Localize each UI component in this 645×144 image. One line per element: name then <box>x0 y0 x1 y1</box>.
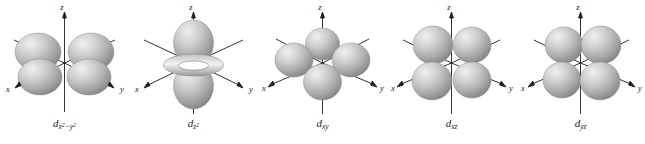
orbital-panel-dz2: z x y dz2 <box>129 0 258 144</box>
axis-label-z: z <box>575 2 580 12</box>
d-x2-y2-diagram: z x y <box>0 0 129 124</box>
orbital-caption-dxy: dxy <box>258 118 387 131</box>
axis-label-y: y <box>508 83 513 93</box>
orbital-subscript-main: xz <box>451 122 457 131</box>
orbital-lobes <box>543 26 621 100</box>
axis-label-z: z <box>59 2 64 12</box>
torus-ring <box>164 54 224 76</box>
axis-label-x: x <box>261 83 266 93</box>
orbital-caption-dx2-y2: dx2−y2 <box>0 118 129 131</box>
orbital-caption-dyz: dyz <box>516 118 645 131</box>
orbital-panel-dyz: z x y dyz <box>516 0 645 144</box>
axis-label-x: x <box>390 83 395 93</box>
orbital-lobes <box>275 28 370 100</box>
orbital-panel-dxz: z x y dxz <box>387 0 516 144</box>
d-orbital-figure: z x y dx2−y2 <box>0 0 645 144</box>
orbital-subscript-main: xy <box>322 122 329 131</box>
d-yz-diagram: z x y <box>516 0 645 124</box>
d-xy-diagram: z x y <box>258 0 387 124</box>
orbital-subscript-exp2: 2 <box>73 122 76 128</box>
d-z2-diagram: z x y <box>129 0 258 124</box>
axis-label-x: x <box>5 84 10 94</box>
axis-label-z: z <box>446 2 451 12</box>
axis-label-y: y <box>119 84 124 94</box>
axis-label-z: z <box>188 2 193 12</box>
axis-lines <box>530 14 633 114</box>
orbital-caption-dz2: dz2 <box>129 118 258 131</box>
d-xz-diagram: z x y <box>387 0 516 124</box>
axis-label-y: y <box>379 83 384 93</box>
axis-label-y: y <box>248 84 253 94</box>
axis-label-z: z <box>317 2 322 12</box>
orbital-panel-dxy: z x y dxy <box>258 0 387 144</box>
axis-label-x: x <box>134 84 139 94</box>
axis-label-x: x <box>520 83 525 93</box>
axis-label-y: y <box>637 83 642 93</box>
axis-lines <box>399 14 504 114</box>
orbital-subscript-exp1: 2 <box>196 122 199 128</box>
orbital-caption-dxz: dxz <box>387 118 516 131</box>
orbital-subscript-main: yz <box>580 122 586 131</box>
orbital-lobes <box>164 20 224 109</box>
orbital-subscript-minus: −y <box>65 122 73 131</box>
orbital-panel-dx2-y2: z x y dx2−y2 <box>0 0 129 144</box>
